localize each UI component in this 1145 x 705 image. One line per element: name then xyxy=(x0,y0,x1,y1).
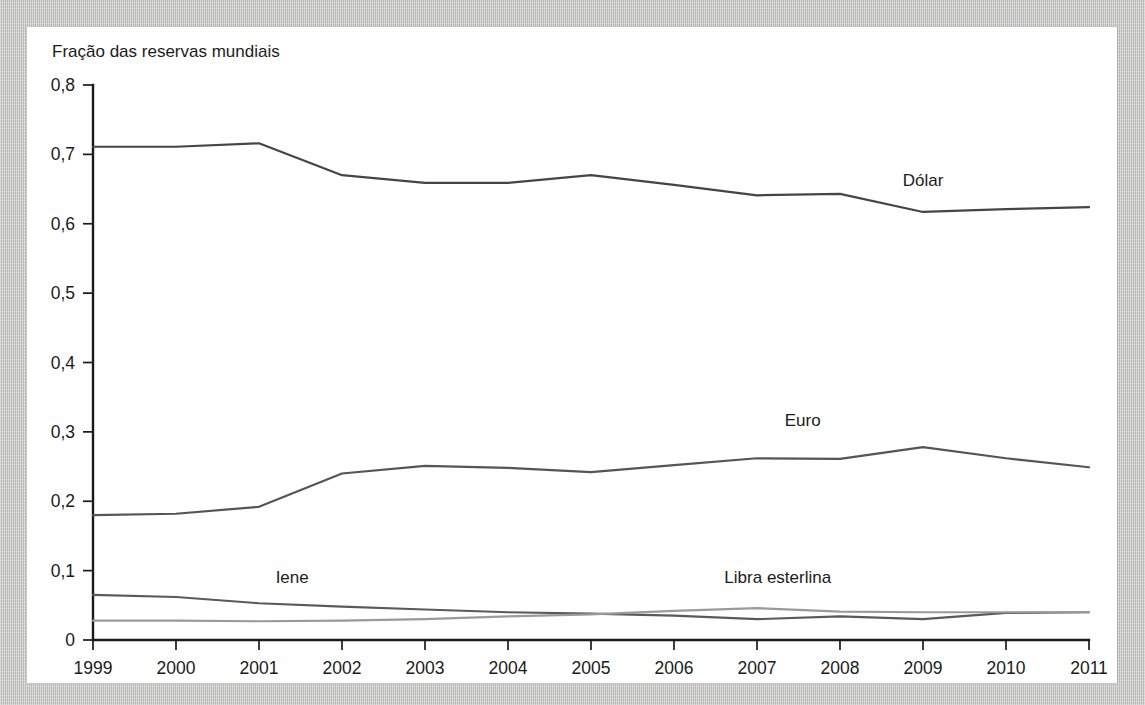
series-line-euro xyxy=(93,447,1089,515)
x-tick-label: 2010 xyxy=(987,658,1026,678)
x-tick-label: 2006 xyxy=(655,658,694,678)
y-axis-title: Fração das reservas mundiais xyxy=(52,42,280,61)
y-tick-label: 0 xyxy=(65,630,75,650)
x-tick-label: 2009 xyxy=(904,658,943,678)
series-labels: DólarEuroIeneLibra esterlina xyxy=(276,171,944,588)
x-tick-label: 2001 xyxy=(240,658,279,678)
y-tick-label: 0,2 xyxy=(51,491,75,511)
x-tick-label: 1999 xyxy=(74,658,113,678)
x-tick-label: 2000 xyxy=(157,658,196,678)
series-lines xyxy=(93,143,1089,621)
y-axis-ticks: 00,10,20,30,40,50,60,70,8 xyxy=(51,75,93,650)
y-tick-label: 0,8 xyxy=(51,75,75,95)
chart-card: Fração das reservas mundiais 00,10,20,30… xyxy=(27,27,1117,683)
reserve-currency-line-chart: Fração das reservas mundiais 00,10,20,30… xyxy=(27,27,1117,683)
x-tick-label: 2003 xyxy=(406,658,445,678)
y-tick-label: 0,3 xyxy=(51,422,75,442)
x-tick-label: 2002 xyxy=(323,658,362,678)
series-line-libra-esterlina xyxy=(93,608,1089,621)
x-axis-ticks: 1999200020012002200320042005200620072008… xyxy=(74,640,1108,678)
series-label-libra-esterlina: Libra esterlina xyxy=(724,568,831,587)
y-tick-label: 0,5 xyxy=(51,283,75,303)
series-line-iene xyxy=(93,595,1089,619)
axis-title-group: Fração das reservas mundiais xyxy=(52,42,280,61)
y-tick-label: 0,6 xyxy=(51,214,75,234)
x-tick-label: 2007 xyxy=(738,658,777,678)
series-label-d-lar: Dólar xyxy=(903,171,944,190)
x-tick-label: 2005 xyxy=(572,658,611,678)
y-tick-label: 0,7 xyxy=(51,144,75,164)
y-tick-label: 0,4 xyxy=(51,353,76,373)
series-label-iene: Iene xyxy=(276,568,309,587)
figure-background: Fração das reservas mundiais 00,10,20,30… xyxy=(0,0,1145,705)
x-tick-label: 2011 xyxy=(1070,658,1108,678)
axis-spine xyxy=(93,85,1089,640)
axis-lines xyxy=(93,85,1089,640)
x-tick-label: 2008 xyxy=(821,658,860,678)
y-tick-label: 0,1 xyxy=(51,561,75,581)
series-label-euro: Euro xyxy=(785,411,821,430)
x-tick-label: 2004 xyxy=(489,658,528,678)
